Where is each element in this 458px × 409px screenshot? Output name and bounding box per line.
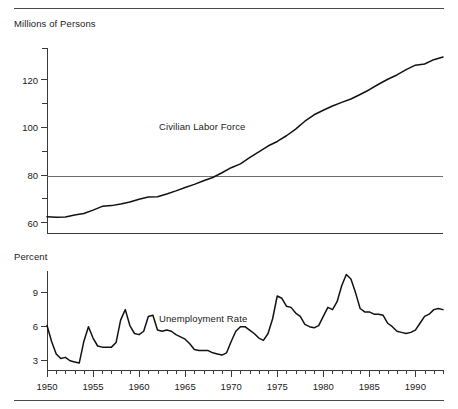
top-panel-axis-title: Millions of Persons (14, 18, 96, 29)
x-axis-label-1990: 1990 (405, 381, 426, 392)
panel-unemployment-rate: Percent 9 6 3 Unemployment Rate 19501955… (0, 245, 458, 409)
x-tick-1987 (388, 370, 389, 374)
x-tick-1985 (369, 370, 370, 377)
x-tick-1952 (65, 370, 66, 374)
x-axis-label-1960: 1960 (129, 381, 150, 392)
x-tick-1964 (176, 370, 177, 374)
x-tick-1983 (351, 370, 352, 374)
bottom-panel-axis-title: Percent (14, 251, 47, 262)
x-tick-1977 (296, 370, 297, 374)
x-tick-1970 (231, 370, 232, 377)
x-tick-1950 (47, 370, 48, 377)
x-tick-1991 (425, 370, 426, 374)
x-tick-1980 (323, 370, 324, 377)
x-tick-1959 (130, 370, 131, 374)
x-tick-1971 (240, 370, 241, 374)
x-tick-1993 (443, 370, 444, 374)
bottom-y-label-6: 6 (7, 321, 38, 332)
x-tick-1986 (379, 370, 380, 374)
top-y-label-60: 60 (7, 217, 38, 228)
top-y-label-100: 100 (7, 122, 38, 133)
x-tick-1954 (84, 370, 85, 374)
x-tick-1976 (286, 370, 287, 374)
x-tick-1963 (167, 370, 168, 374)
x-axis-label-1985: 1985 (359, 381, 380, 392)
bottom-y-label-3: 3 (7, 355, 38, 366)
x-tick-1992 (434, 370, 435, 374)
x-tick-1975 (277, 370, 278, 377)
civilian-labor-force-line (47, 48, 443, 234)
x-tick-1988 (397, 370, 398, 374)
x-tick-1962 (158, 370, 159, 374)
x-tick-1972 (250, 370, 251, 374)
x-axis-label-1975: 1975 (267, 381, 288, 392)
x-axis-label-1955: 1955 (82, 381, 103, 392)
x-tick-1984 (360, 370, 361, 374)
x-tick-1957 (111, 370, 112, 374)
x-tick-1982 (342, 370, 343, 374)
x-tick-1960 (139, 370, 140, 377)
top-panel-plot-area: 120 100 80 60 Civilian Labor Force (47, 48, 443, 234)
bottom-panel-plot-area: 9 6 3 Unemployment Rate 1950195519601965… (47, 271, 443, 371)
x-tick-1956 (102, 370, 103, 374)
x-tick-1958 (121, 370, 122, 374)
x-tick-1967 (204, 370, 205, 374)
x-tick-1974 (268, 370, 269, 374)
x-tick-1973 (259, 370, 260, 374)
unemployment-rate-line (47, 271, 443, 371)
x-axis-label-1950: 1950 (36, 381, 57, 392)
x-tick-1981 (332, 370, 333, 374)
x-tick-1969 (222, 370, 223, 374)
bottom-y-label-9: 9 (7, 287, 38, 298)
x-tick-1990 (415, 370, 416, 377)
panel-civilian-labor-force: Millions of Persons 120 100 80 60 Civili… (0, 0, 458, 245)
x-tick-1961 (148, 370, 149, 374)
x-axis-label-1970: 1970 (221, 381, 242, 392)
x-tick-1979 (314, 370, 315, 374)
x-tick-1966 (194, 370, 195, 374)
x-tick-1953 (75, 370, 76, 374)
x-axis-label-1965: 1965 (175, 381, 196, 392)
x-tick-1978 (305, 370, 306, 374)
x-tick-1955 (93, 370, 94, 377)
x-tick-1951 (56, 370, 57, 374)
x-tick-1968 (213, 370, 214, 374)
top-y-label-120: 120 (7, 74, 38, 85)
top-y-label-80: 80 (7, 170, 38, 181)
x-axis-label-1980: 1980 (313, 381, 334, 392)
x-tick-1965 (185, 370, 186, 377)
x-tick-1989 (406, 370, 407, 374)
figure-container: Millions of Persons 120 100 80 60 Civili… (0, 0, 458, 409)
